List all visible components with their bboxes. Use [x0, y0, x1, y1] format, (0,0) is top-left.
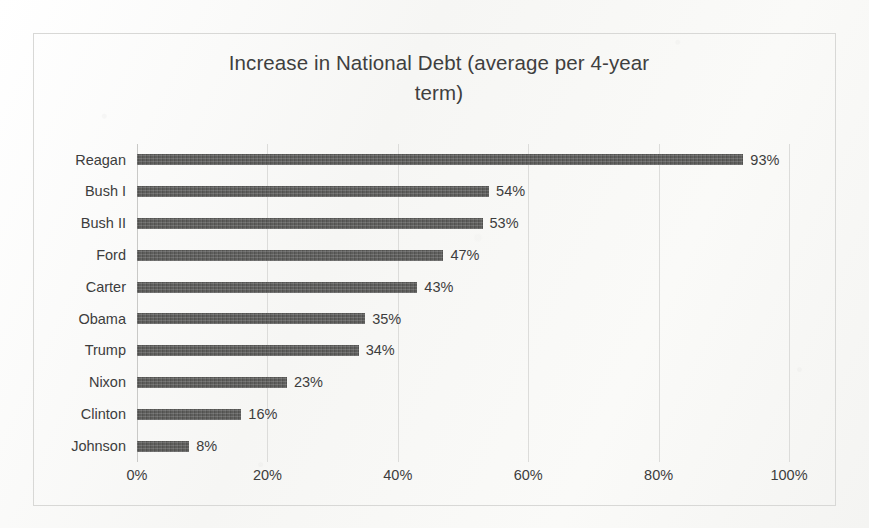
bar-value-label: 34%: [366, 343, 395, 358]
chart-title: Increase in National Debt (average per 4…: [154, 48, 724, 108]
bar: [137, 377, 287, 388]
bar-value-label: 53%: [490, 216, 519, 231]
category-label: Trump: [85, 343, 126, 358]
category-label: Nixon: [89, 375, 126, 390]
bar-value-label: 43%: [424, 280, 453, 295]
bar: [137, 313, 365, 324]
category-label: Bush I: [85, 184, 126, 199]
category-label: Obama: [78, 312, 126, 327]
category-label: Ford: [96, 248, 126, 263]
gridline: [789, 144, 790, 462]
bar-value-label: 8%: [196, 439, 217, 454]
category-label: Reagan: [75, 153, 126, 168]
bar-row: Trump34%: [137, 335, 789, 367]
chart-frame: Increase in National Debt (average per 4…: [33, 33, 836, 506]
bar: [137, 409, 241, 420]
bar-value-label: 54%: [496, 184, 525, 199]
category-label: Johnson: [71, 439, 126, 454]
x-axis-tick-label: 100%: [770, 468, 807, 483]
bar: [137, 218, 483, 229]
bar: [137, 441, 189, 452]
bar-row: Nixon23%: [137, 367, 789, 399]
x-axis-tick-label: 80%: [644, 468, 673, 483]
bar-row: Clinton16%: [137, 398, 789, 430]
plot-area: Reagan93%Bush I54%Bush II53%Ford47%Carte…: [137, 144, 789, 462]
bar: [137, 154, 743, 165]
bar: [137, 345, 359, 356]
bar-row: Bush II53%: [137, 208, 789, 240]
category-label: Carter: [86, 280, 126, 295]
bar-value-label: 23%: [294, 375, 323, 390]
x-axis-tick-labels: 0%20%40%60%80%100%: [137, 468, 789, 490]
bars-layer: Reagan93%Bush I54%Bush II53%Ford47%Carte…: [137, 144, 789, 462]
category-label: Bush II: [81, 216, 126, 231]
bar-value-label: 35%: [372, 312, 401, 327]
x-axis-tick-label: 40%: [383, 468, 412, 483]
bar-row: Bush I54%: [137, 176, 789, 208]
x-axis-tick-label: 0%: [127, 468, 148, 483]
bar-value-label: 93%: [750, 153, 779, 168]
bar-row: Carter43%: [137, 271, 789, 303]
x-axis-tick-label: 20%: [253, 468, 282, 483]
bar-row: Obama35%: [137, 303, 789, 335]
bar: [137, 250, 443, 261]
bar-row: Ford47%: [137, 239, 789, 271]
bar: [137, 186, 489, 197]
bar-value-label: 16%: [248, 407, 277, 422]
bar-value-label: 47%: [450, 248, 479, 263]
bar-row: Johnson8%: [137, 430, 789, 462]
bar: [137, 282, 417, 293]
x-axis-tick-label: 60%: [514, 468, 543, 483]
bar-row: Reagan93%: [137, 144, 789, 176]
category-label: Clinton: [81, 407, 126, 422]
